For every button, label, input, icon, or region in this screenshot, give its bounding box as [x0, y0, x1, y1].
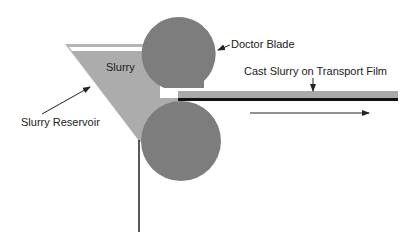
reservoir-pointer-arrow [42, 87, 90, 114]
transport-film [178, 98, 398, 101]
lower-roller [141, 101, 221, 181]
doctor-blade-label: Doctor Blade [231, 39, 295, 50]
doctor-blade-pointer-arrow [218, 45, 230, 50]
cast-slurry-label: Cast Slurry on Transport Film [244, 66, 387, 77]
doctor-blade-roller [142, 17, 216, 88]
slurry-label: Slurry [106, 62, 135, 73]
cast-slurry-layer [178, 91, 398, 98]
slurry-reservoir-label: Slurry Reservoir [21, 117, 100, 128]
